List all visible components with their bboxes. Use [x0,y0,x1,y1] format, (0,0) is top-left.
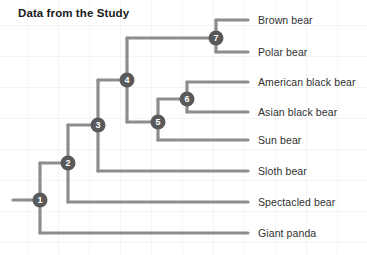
leaf-label-spectacled-bear: Spectacled bear [258,196,335,208]
leaf-label-asian-black-bear: Asian black bear [258,106,337,118]
leaf-label-giant-panda: Giant panda [258,227,316,239]
tree-branches [13,20,248,233]
node-number-2: 2 [65,158,70,168]
phylogenetic-tree: 1234567 [0,0,367,255]
node-number-1: 1 [37,195,42,205]
node-number-7: 7 [213,33,218,43]
node-number-6: 6 [184,94,189,104]
node-number-3: 3 [95,120,100,130]
node-number-4: 4 [124,75,129,85]
leaf-label-sun-bear: Sun bear [258,134,301,146]
node-number-5: 5 [155,117,160,127]
cladogram-figure: Data from the Study 1234567 Brown bearPo… [0,0,367,255]
leaf-label-sloth-bear: Sloth bear [258,165,307,177]
leaf-label-american-black-bear: American black bear [258,76,356,88]
leaf-label-polar-bear: Polar bear [258,46,307,58]
leaf-label-brown-bear: Brown bear [258,14,313,26]
